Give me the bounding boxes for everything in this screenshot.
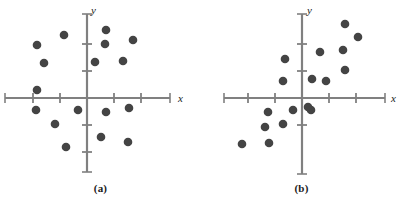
panel-b-x-axis-label: x [390, 92, 396, 104]
panel-a-y-axis-label: y [90, 4, 96, 16]
data-point [51, 120, 60, 129]
data-point [341, 66, 350, 75]
data-point [60, 31, 69, 40]
data-point [316, 48, 325, 57]
data-point [62, 143, 71, 152]
data-point [101, 40, 110, 49]
data-point [97, 133, 106, 142]
panel-a-caption: (a) [0, 182, 201, 194]
data-point [308, 75, 317, 84]
data-point [102, 108, 111, 117]
data-point [91, 58, 100, 67]
data-point [74, 106, 83, 115]
panel-b-caption: (b) [201, 182, 402, 194]
data-point [261, 123, 270, 132]
panel-b-data-points [238, 20, 363, 149]
panel-b-y-axis-label: y [306, 4, 312, 16]
data-point [119, 57, 128, 66]
data-point [33, 86, 42, 95]
data-point [279, 77, 288, 86]
panel-a-x-axis-label: x [177, 92, 183, 104]
panel-b: x y (b) [201, 0, 402, 206]
data-point [289, 106, 298, 115]
data-point [238, 140, 247, 149]
data-point [304, 103, 313, 112]
data-point [341, 20, 350, 29]
data-point [33, 41, 42, 50]
data-point [322, 77, 331, 86]
panel-a: x y (a) [0, 0, 201, 206]
data-point [124, 138, 133, 147]
data-point [279, 120, 288, 129]
data-point [281, 55, 290, 64]
data-point [129, 36, 138, 45]
data-point [264, 108, 273, 117]
data-point [40, 59, 49, 68]
data-point [125, 104, 134, 113]
scatter-plot-figure: x y (a) x y (b) [0, 0, 402, 206]
panel-a-axes [5, 14, 170, 172]
data-point [354, 33, 363, 42]
data-point [339, 46, 348, 55]
panel-a-plot: x y [0, 0, 201, 206]
data-point [265, 139, 274, 148]
data-point [102, 26, 111, 35]
data-point [32, 106, 41, 115]
panel-b-plot: x y [201, 0, 402, 206]
